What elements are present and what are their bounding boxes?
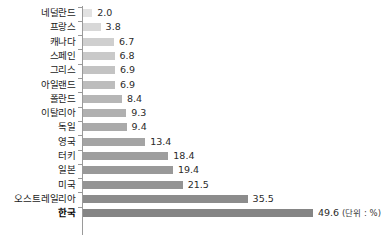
bar-row: 영국13.4 bbox=[0, 135, 383, 149]
bar bbox=[83, 66, 115, 74]
axis-tick bbox=[78, 178, 82, 179]
category-label: 영국 bbox=[0, 135, 76, 149]
bar bbox=[83, 123, 127, 131]
value-label: 9.4 bbox=[132, 120, 147, 134]
value-label: 49.6 bbox=[318, 206, 339, 220]
value-label: 9.3 bbox=[131, 106, 146, 120]
axis-tick bbox=[78, 135, 82, 136]
axis-tick bbox=[78, 49, 82, 50]
category-label: 이탈리아 bbox=[0, 106, 76, 120]
bar bbox=[83, 95, 122, 103]
axis-tick bbox=[78, 7, 82, 8]
bar bbox=[83, 138, 145, 146]
value-label: 6.7 bbox=[119, 35, 134, 49]
bar bbox=[83, 38, 114, 46]
bar-row: 한국49.6(단위 : %) bbox=[0, 206, 383, 220]
bar-row: 미국21.5 bbox=[0, 178, 383, 192]
axis-tick bbox=[78, 192, 82, 193]
bar bbox=[83, 9, 92, 17]
bar bbox=[83, 209, 313, 217]
axis-tick bbox=[78, 21, 82, 22]
category-label: 터키 bbox=[0, 149, 76, 163]
bar bbox=[83, 195, 248, 203]
axis-tick bbox=[78, 207, 82, 208]
category-label: 그리스 bbox=[0, 63, 76, 77]
bar-row: 네덜란드2.0 bbox=[0, 6, 383, 20]
category-label: 아일랜드 bbox=[0, 78, 76, 92]
category-label: 스페인 bbox=[0, 49, 76, 63]
category-label: 오스트레일리아 bbox=[0, 192, 76, 206]
bar bbox=[83, 52, 115, 60]
bar-row: 오스트레일리아35.5 bbox=[0, 192, 383, 206]
value-label: 6.9 bbox=[120, 78, 135, 92]
bar bbox=[83, 81, 115, 89]
bar bbox=[83, 181, 183, 189]
category-label: 한국 bbox=[0, 206, 76, 220]
bar-row: 폴란드8.4 bbox=[0, 92, 383, 106]
category-label: 캐나다 bbox=[0, 35, 76, 49]
category-label: 미국 bbox=[0, 178, 76, 192]
axis-tick bbox=[78, 92, 82, 93]
bar-row: 이탈리아9.3 bbox=[0, 106, 383, 120]
bar-row: 독일9.4 bbox=[0, 120, 383, 134]
axis-tick bbox=[78, 121, 82, 122]
bar bbox=[83, 166, 173, 174]
category-label: 독일 bbox=[0, 120, 76, 134]
category-label: 프랑스 bbox=[0, 20, 76, 34]
value-label: 2.0 bbox=[97, 6, 112, 20]
axis-tick bbox=[78, 78, 82, 79]
axis-tick bbox=[78, 64, 82, 65]
axis-tick bbox=[78, 150, 82, 151]
value-label: 6.8 bbox=[120, 49, 135, 63]
unit-annotation: (단위 : %) bbox=[342, 206, 381, 220]
value-label: 35.5 bbox=[253, 192, 274, 206]
value-label: 21.5 bbox=[188, 178, 209, 192]
category-label: 네덜란드 bbox=[0, 6, 76, 20]
value-label: 13.4 bbox=[150, 135, 171, 149]
bar-chart: 네덜란드2.0프랑스3.8캐나다6.7스페인6.8그리스6.9아일랜드6.9폴란… bbox=[0, 0, 383, 239]
bar-row: 그리스6.9 bbox=[0, 63, 383, 77]
value-label: 3.8 bbox=[106, 20, 121, 34]
bar bbox=[83, 23, 101, 31]
bar bbox=[83, 152, 168, 160]
bar-row: 터키18.4 bbox=[0, 149, 383, 163]
plot-area: 네덜란드2.0프랑스3.8캐나다6.7스페인6.8그리스6.9아일랜드6.9폴란… bbox=[0, 6, 383, 236]
axis-tick bbox=[78, 164, 82, 165]
axis-tick bbox=[78, 35, 82, 36]
value-label: 19.4 bbox=[178, 163, 199, 177]
category-label: 폴란드 bbox=[0, 92, 76, 106]
axis-tick bbox=[78, 107, 82, 108]
bar bbox=[83, 109, 126, 117]
bar-row: 아일랜드6.9 bbox=[0, 78, 383, 92]
bar-row: 캐나다6.7 bbox=[0, 35, 383, 49]
value-label: 8.4 bbox=[127, 92, 142, 106]
bar-row: 일본19.4 bbox=[0, 163, 383, 177]
value-label: 6.9 bbox=[120, 63, 135, 77]
value-label: 18.4 bbox=[173, 149, 194, 163]
category-label: 일본 bbox=[0, 163, 76, 177]
bar-row: 스페인6.8 bbox=[0, 49, 383, 63]
bar-row: 프랑스3.8 bbox=[0, 20, 383, 34]
